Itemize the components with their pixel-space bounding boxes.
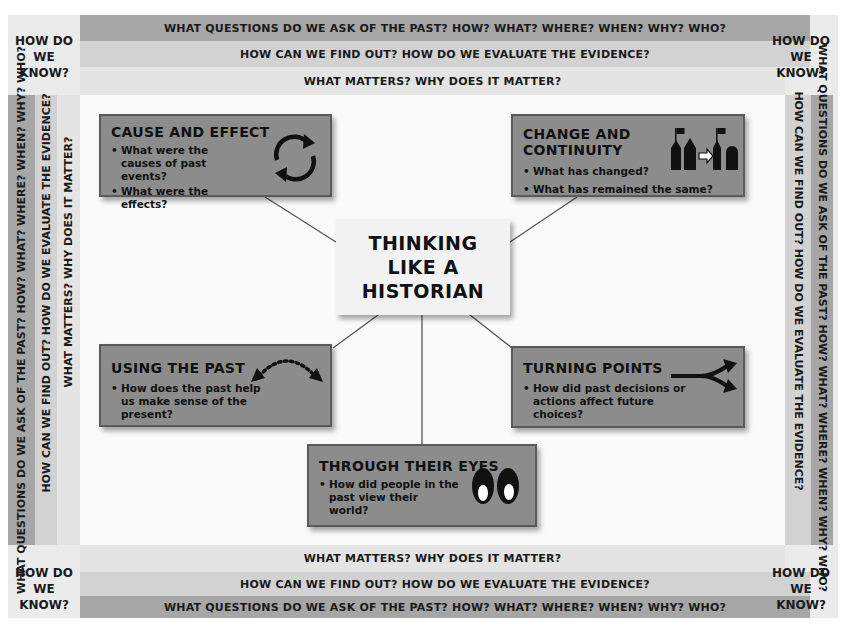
cycle-arrows-icon (267, 130, 323, 186)
dotted-arc-arrow-icon (249, 352, 325, 386)
card-cause-and-effect: CAUSE AND EFFECT What were the causes of… (99, 114, 332, 197)
central-title: THINKING LIKE A HISTORIAN (353, 231, 493, 303)
connector-lines (0, 0, 845, 630)
card-through-their-eyes: THROUGH THEIR EYES How did people in the… (307, 444, 537, 527)
card-bullet: How does the past help us make sense of … (111, 382, 271, 421)
card-bullet: What were the effects? (111, 185, 251, 211)
central-title-box: THINKING LIKE A HISTORIAN (336, 219, 510, 315)
fork-arrow-icon (671, 358, 741, 394)
card-bullet: What has remained the same? (523, 183, 735, 196)
card-turning-points: TURNING POINTS How did past decisions or… (511, 346, 745, 428)
card-change-and-continuity: CHANGE AND CONTINUITY What has changed? … (511, 114, 745, 197)
card-using-the-past: USING THE PAST How does the past help us… (99, 344, 332, 427)
eyes-icon (471, 464, 521, 508)
buildings-change-icon (671, 126, 741, 170)
card-bullet: What were the causes of past events? (111, 144, 251, 183)
card-bullet: How did past decisions or actions affect… (523, 382, 693, 421)
card-bullet: How did people in the past view their wo… (319, 478, 459, 517)
